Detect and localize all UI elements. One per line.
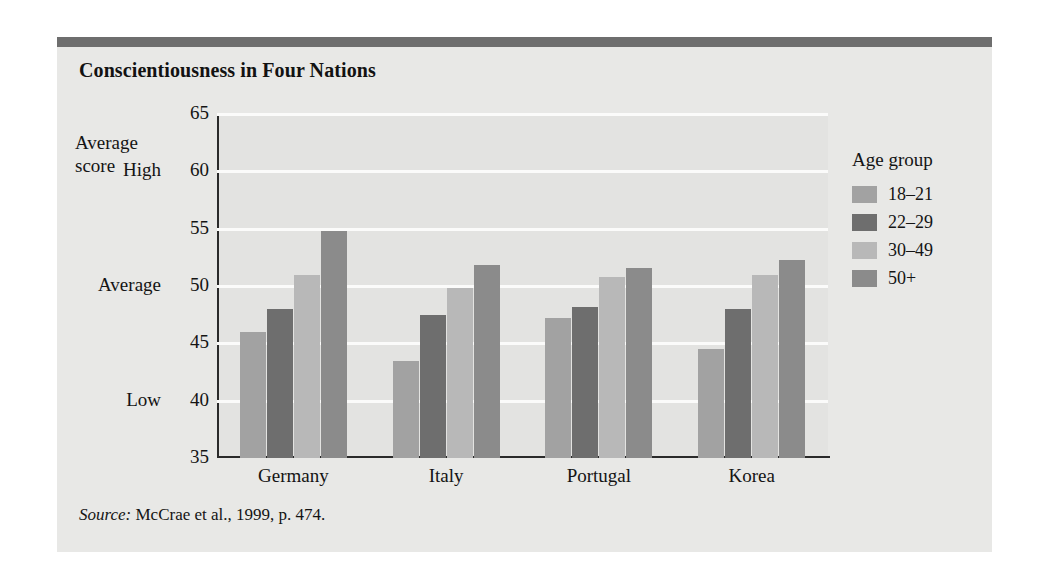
legend-rows: 18–2122–2930–4950+ [852,180,987,292]
legend-item-label: 50+ [888,268,916,289]
y-axis-caption-line1: Average [75,131,175,154]
bar [752,275,778,458]
source-label: Source: [79,505,131,524]
bar [599,277,625,458]
y-tick-label: 65 [165,102,209,124]
bar [474,265,500,458]
legend-item: 22–29 [852,208,987,236]
bar [447,288,473,458]
legend-swatch-icon [852,242,877,259]
x-category-label: Portugal [519,465,679,487]
y-tick-label: 35 [165,446,209,468]
bar [240,332,266,458]
legend-swatch-icon [852,270,877,287]
figure-top-rule [57,37,992,47]
x-category-label: Korea [672,465,832,487]
y-tick-label: 60 [165,159,209,181]
bar [545,318,571,458]
bar [698,349,724,458]
legend-item-label: 18–21 [888,184,933,205]
gridline [217,170,828,173]
bar [779,260,805,458]
figure-panel: Conscientiousness in Four Nations Averag… [57,37,992,552]
figure-title: Conscientiousness in Four Nations [79,59,376,82]
legend-item: 50+ [852,264,987,292]
legend-item-label: 22–29 [888,212,933,233]
bar [267,309,293,458]
bar [626,268,652,458]
x-category-label: Germany [213,465,373,487]
y-tick-label: 55 [165,217,209,239]
x-category-label: Italy [366,465,526,487]
source-text: McCrae et al., 1999, p. 474. [136,505,326,524]
y-tick-label: 50 [165,274,209,296]
legend-swatch-icon [852,186,877,203]
legend-item: 18–21 [852,180,987,208]
legend: Age group 18–2122–2930–4950+ [852,149,987,292]
bar [393,361,419,458]
source-line: Source: McCrae et al., 1999, p. 474. [79,505,325,525]
legend-swatch-icon [852,214,877,231]
y-anchor-label: Low [51,389,161,411]
gridline [217,113,828,116]
gridline [217,228,828,231]
y-tick-label: 40 [165,389,209,411]
y-tick-label: 45 [165,331,209,353]
y-anchor-label: High [51,159,161,181]
bar [572,307,598,458]
legend-title: Age group [852,149,987,171]
bar [725,309,751,458]
legend-item-label: 30–49 [888,240,933,261]
bar [321,231,347,458]
bar [420,315,446,458]
bar [294,275,320,458]
y-anchor-label: Average [51,274,161,296]
legend-item: 30–49 [852,236,987,264]
